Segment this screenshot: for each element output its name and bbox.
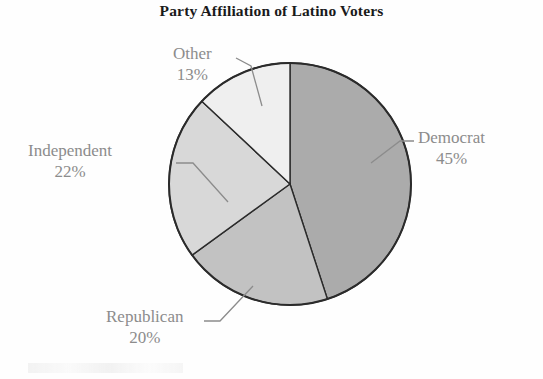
pie-label-independent: Independent 22% bbox=[28, 141, 112, 182]
pie-label-other: Other 13% bbox=[173, 44, 212, 85]
pie-label-other-name: Other bbox=[173, 44, 212, 65]
pie-label-democrat-percent: 45% bbox=[418, 149, 485, 170]
pie-label-independent-percent: 22% bbox=[28, 162, 112, 183]
pie-label-independent-name: Independent bbox=[28, 141, 112, 162]
scan-artifact bbox=[28, 363, 183, 373]
pie-label-other-percent: 13% bbox=[173, 65, 212, 86]
pie-label-republican: Republican 20% bbox=[106, 307, 183, 348]
pie-chart-figure: Party Affiliation of Latino Voters Democ… bbox=[0, 0, 543, 379]
pie-label-democrat: Democrat 45% bbox=[418, 128, 485, 169]
pie-label-democrat-name: Democrat bbox=[418, 128, 485, 149]
pie-chart-graphic bbox=[0, 0, 543, 379]
pie-label-republican-percent: 20% bbox=[106, 328, 183, 349]
pie-label-republican-name: Republican bbox=[106, 307, 183, 328]
